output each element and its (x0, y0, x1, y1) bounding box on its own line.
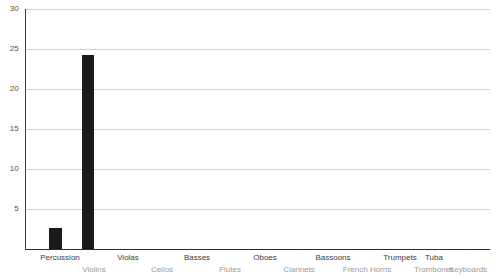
y-tick-label-25: 25 (0, 45, 19, 53)
gridline-20 (25, 89, 490, 90)
x-label-french-horns: French Horns (343, 266, 391, 274)
bar-chart: 51015202530 PercussionViolinsViolasCello… (0, 0, 500, 279)
bar-percussion (49, 228, 62, 249)
y-axis-line (25, 9, 26, 250)
x-label-clarinets: Clarinets (283, 266, 315, 274)
x-label-basses: Basses (184, 254, 210, 262)
x-label-tuba: Tuba (425, 254, 443, 262)
gridline-30 (25, 9, 490, 10)
y-tick-label-5: 5 (0, 205, 19, 213)
gridline-10 (25, 169, 490, 170)
x-label-violins: Violins (82, 266, 105, 274)
x-label-violas: Violas (117, 254, 139, 262)
bar-violins (82, 55, 94, 249)
gridline-25 (25, 49, 490, 50)
x-label-trumpets: Trumpets (383, 254, 417, 262)
x-label-flutes: Flutes (219, 266, 241, 274)
y-tick-label-15: 15 (0, 125, 19, 133)
y-tick-label-10: 10 (0, 165, 19, 173)
x-label-keyboards: Keyboards (449, 266, 487, 274)
y-tick-label-20: 20 (0, 85, 19, 93)
x-label-oboes: Oboes (253, 254, 277, 262)
y-tick-label-30: 30 (0, 5, 19, 13)
x-axis-category-labels: PercussionViolinsViolasCellosBassesFlute… (0, 250, 500, 279)
x-label-cellos: Cellos (151, 266, 173, 274)
x-label-percussion: Percussion (40, 254, 80, 262)
x-label-bassoons: Bassoons (315, 254, 350, 262)
gridline-15 (25, 129, 490, 130)
plot-area (25, 9, 490, 249)
gridline-5 (25, 209, 490, 210)
